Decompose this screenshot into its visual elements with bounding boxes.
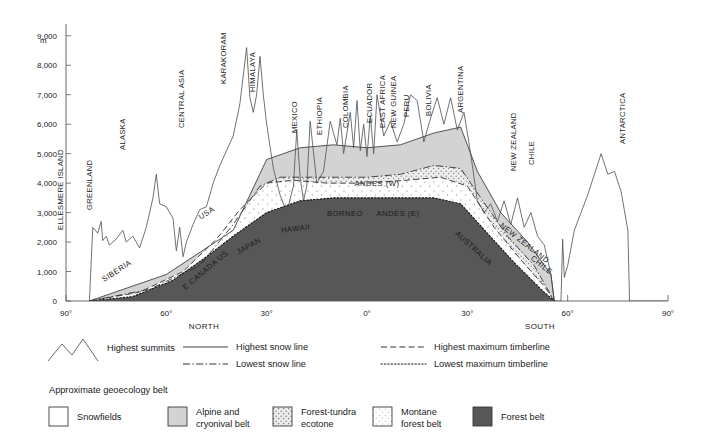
belt-legend-title: Approximate geoecology belt <box>49 385 168 395</box>
snowline-timberline-chart: 01,0002,0003,0004,0005,0006,0007,0008,00… <box>0 0 702 439</box>
belt-swatch <box>168 407 187 426</box>
region-label: ARGENTINA <box>456 65 465 113</box>
region-label: BOLIVIA <box>424 83 433 116</box>
y-tick-label: 5,000 <box>37 150 58 159</box>
belt-legend-items: SnowfieldsAlpine andcryonival beltForest… <box>49 407 545 429</box>
belt-swatch <box>273 407 292 426</box>
region-label: ELLESMERE ISLAND <box>56 149 65 230</box>
x-tick-label: 60° <box>160 309 172 318</box>
legend-label-lowest-snow-line: Lowest snow line <box>236 359 306 369</box>
highest-summits-icon <box>48 339 98 361</box>
x-tick-label: 30° <box>461 309 473 318</box>
belt-legend-label: Montane <box>401 407 437 417</box>
region-label: ANTARCTICA <box>618 92 627 144</box>
y-tick-label: 4,000 <box>37 179 58 188</box>
region-label: MEXICO <box>290 101 299 133</box>
region-label: KARAKORAM <box>219 32 228 84</box>
hemisphere-label-south: SOUTH <box>525 322 555 331</box>
belt-legend-label: cryonival belt <box>196 419 250 429</box>
x-tick-label: 90° <box>60 309 72 318</box>
region-label: ALASKA <box>118 118 127 150</box>
legend-label-highest-summits: Highest summits <box>107 343 175 353</box>
x-tick-label: 0° <box>363 309 371 318</box>
region-label: PERU <box>402 95 411 118</box>
belt-swatch <box>49 407 68 426</box>
region-label: COLOMBIA <box>341 85 350 128</box>
region-label: GREENLAND <box>85 159 94 210</box>
legend-label-highest-snow-line: Highest snow line <box>236 342 308 352</box>
legend-label-highest-maximum-timberline: Highest maximum timberline <box>434 342 550 352</box>
belt-legend-label: Forest belt <box>501 412 545 422</box>
region-label: NEW ZEALAND <box>509 112 518 171</box>
y-tick-label: 3,000 <box>37 209 58 218</box>
region-label-inside: ANDES (W) <box>355 179 400 188</box>
legend-label-lowest-maximum-timberline: Lowest maximum timberline <box>434 359 548 369</box>
region-label: ETHIOPIA <box>315 96 324 135</box>
belt-legend-label: Alpine and <box>196 407 239 417</box>
figure-root: 01,0002,0003,0004,0005,0006,0007,0008,00… <box>0 0 702 439</box>
y-tick-label: 2,000 <box>37 238 58 247</box>
y-tick-label: 0 <box>53 297 58 306</box>
x-tick-label: 60° <box>562 309 574 318</box>
belt-legend: Approximate geoecology belt SnowfieldsAl… <box>49 385 545 429</box>
region-label: ECUADOR <box>365 82 374 123</box>
y-tick-label: 7,000 <box>37 91 58 100</box>
belt-legend-label: forest belt <box>401 419 442 429</box>
hemisphere-label-north: NORTH <box>189 322 219 331</box>
region-label-inside: BORNEO <box>327 209 363 218</box>
hemisphere-labels: NORTH SOUTH <box>189 322 555 331</box>
belt-legend-label: Forest-tundra <box>301 407 357 417</box>
y-tick-label: 8,000 <box>37 61 58 70</box>
line-legend: Highest summits Highest snow line Lowest… <box>48 339 550 369</box>
region-label: CHILE <box>527 141 536 165</box>
belt-swatch <box>473 407 492 426</box>
belt-legend-label: Snowfields <box>77 412 122 422</box>
y-axis-unit: m <box>40 36 47 45</box>
region-label: NEW GUINEA <box>389 75 398 128</box>
belt-swatch <box>373 407 392 426</box>
x-tick-label: 90° <box>662 309 674 318</box>
y-tick-label: 1,000 <box>37 268 58 277</box>
x-tick-label: 30° <box>261 309 273 318</box>
region-label: HIMALAYA <box>248 51 257 92</box>
belt-legend-label: ecotone <box>301 419 334 429</box>
region-label: EAST AFRICA <box>378 74 387 128</box>
y-tick-label: 6,000 <box>37 120 58 129</box>
region-label-inside: ANDES (E) <box>377 209 420 218</box>
region-label: CENTRAL ASIA <box>177 69 186 128</box>
